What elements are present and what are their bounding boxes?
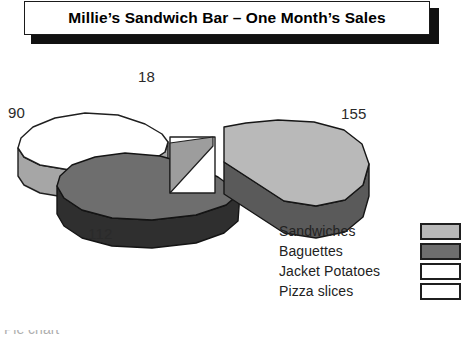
data-label-sandwiches: 155 xyxy=(341,105,367,122)
slice-pizza-slices[interactable] xyxy=(170,137,215,193)
data-label-baguettes: 112 xyxy=(88,225,113,242)
legend-item-sandwiches[interactable]: Sandwiches xyxy=(279,221,461,241)
legend-item-pizza-slices[interactable]: Pizza slices xyxy=(279,281,461,301)
data-label-pizza-slices: 18 xyxy=(138,68,155,85)
legend-item-jacket-potatoes[interactable]: Jacket Potatoes xyxy=(279,261,461,281)
chart-title-plaque: Millie’s Sandwich Bar – One Month’s Sale… xyxy=(24,1,432,37)
title-box: Millie’s Sandwich Bar – One Month’s Sale… xyxy=(24,1,430,35)
legend-label-pizza-slices: Pizza slices xyxy=(279,283,353,299)
legend-label-jacket-potatoes: Jacket Potatoes xyxy=(279,263,380,279)
page-title: Millie’s Sandwich Bar – One Month’s Sale… xyxy=(68,9,385,27)
swatch-sandwiches xyxy=(420,223,461,240)
legend-label-baguettes: Baguettes xyxy=(279,243,343,259)
bottom-cut-off-label: Pie chart xyxy=(4,330,204,337)
data-label-jacket-potatoes: 90 xyxy=(8,104,25,121)
bottom-cut-off-text: Pie chart xyxy=(4,330,204,342)
swatch-pizza-slices xyxy=(420,283,461,300)
legend-label-sandwiches: Sandwiches xyxy=(279,223,356,239)
swatch-baguettes xyxy=(420,243,461,260)
legend-item-baguettes[interactable]: Baguettes xyxy=(279,241,461,261)
swatch-jacket-potatoes xyxy=(420,263,461,280)
chart-legend: Sandwiches Baguettes Jacket Potatoes Piz… xyxy=(279,221,461,301)
